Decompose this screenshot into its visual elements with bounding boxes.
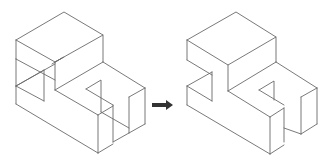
wireframe-figure [0, 0, 165, 161]
solid-figure [160, 0, 325, 161]
